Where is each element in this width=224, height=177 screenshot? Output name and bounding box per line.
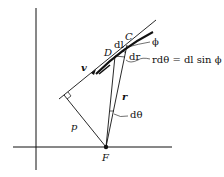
label-p: p — [71, 122, 77, 132]
label-v: v — [81, 63, 87, 73]
label-C: C — [125, 32, 133, 42]
label-relation: rdθ = dl sin ϕ — [152, 55, 221, 65]
label-dtheta: dθ — [130, 110, 142, 120]
orbit-geometry-diagram: C D dl ϕ dr rdθ = dl sin ϕ v r dθ p F — [0, 0, 224, 177]
label-phi: ϕ — [152, 37, 159, 47]
label-F: F — [102, 153, 109, 163]
label-r: r — [122, 92, 127, 102]
label-dr: dr — [129, 52, 140, 62]
radius-FD — [106, 56, 115, 147]
focus-point — [104, 145, 108, 149]
diagram-drawing — [0, 0, 224, 177]
label-dl: dl — [114, 40, 124, 50]
label-D: D — [104, 48, 112, 58]
dtheta-leader — [114, 114, 128, 117]
right-angle-mark — [67, 92, 71, 99]
tangent-line — [59, 20, 156, 99]
